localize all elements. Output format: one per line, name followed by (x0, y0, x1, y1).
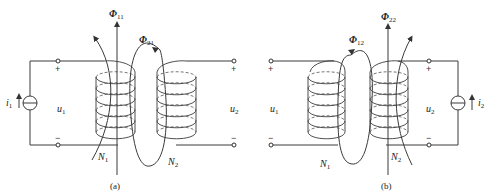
label-u2-a: u2 (230, 103, 239, 116)
minus-sign-a-left: − (55, 133, 60, 143)
terminal-b-top-left (269, 59, 273, 63)
label-phi22: Φ22 (381, 11, 396, 24)
label-n2-b: N2 (390, 151, 402, 164)
terminal-a-bottom-right (232, 143, 236, 147)
minus-sign-a-right: − (231, 133, 236, 143)
coil-n1-a (96, 61, 135, 139)
source-circuit-a (19, 61, 58, 145)
caption-b: (b) (381, 181, 392, 191)
terminal-a-top-right (232, 59, 236, 63)
coil-n2-a (157, 61, 196, 139)
label-phi12: Φ12 (349, 34, 364, 47)
coil-n2-b (370, 61, 408, 139)
minus-sign-b-left: − (268, 133, 273, 143)
plus-sign-b-left: + (268, 64, 273, 74)
source-circuit-b (431, 61, 472, 145)
leakage-flux-arrow-icon (396, 38, 412, 165)
figure-a: Φ11 Φ21 i1 u1 u2 N1 N2 + − + − (a) (6, 8, 239, 191)
flux-phi12-arrowhead-icon (348, 49, 355, 55)
figure-b: Φ22 Φ12 i2 u1 u2 N1 N2 + − + − (b) (268, 11, 485, 191)
terminal-a-top-left (56, 59, 60, 63)
plus-sign-b-right: + (426, 64, 431, 74)
current-source-icon (23, 96, 37, 110)
terminal-a-bottom-left (56, 143, 60, 147)
label-i1: i1 (6, 97, 13, 110)
label-n1-a: N1 (97, 151, 109, 164)
plus-sign-a-right: + (231, 64, 236, 74)
leakage-flux-arrow-icon (92, 38, 111, 160)
minus-sign-b-right: − (426, 133, 431, 143)
label-u1-a: u1 (57, 103, 66, 116)
terminal-b-bottom-left (269, 143, 273, 147)
label-n1-b: N1 (319, 158, 331, 171)
plus-sign-a-left: + (55, 64, 60, 74)
terminal-b-bottom-right (427, 143, 431, 147)
current-source-icon (451, 96, 465, 110)
label-u1-b: u1 (270, 103, 279, 116)
label-n2-a: N2 (167, 156, 179, 169)
label-phi11: Φ11 (109, 8, 124, 21)
flux-phi21-arrowhead-icon (152, 47, 159, 53)
coupled-inductors-diagram: Φ11 Φ21 i1 u1 u2 N1 N2 + − + − (a) (0, 0, 492, 195)
label-i2: i2 (478, 97, 485, 110)
caption-a: (a) (110, 181, 120, 191)
terminal-b-top-right (427, 59, 431, 63)
label-u2-b: u2 (426, 103, 435, 116)
